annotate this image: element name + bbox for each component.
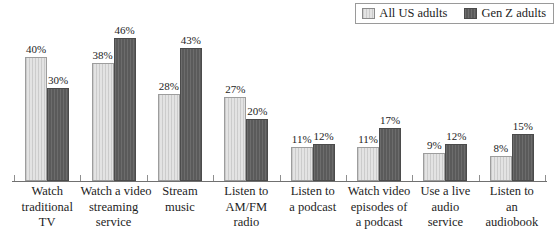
bar-gen-z-adults <box>379 128 401 181</box>
bar-group-bars: 11%17% <box>346 26 412 181</box>
bar-group: 8%15% <box>479 26 545 181</box>
bar-group: 38%46% <box>80 26 146 181</box>
bar-group: 11%17% <box>346 26 412 181</box>
bar-column: 38% <box>92 26 114 181</box>
x-axis-category-label-line: service <box>80 215 146 231</box>
x-axis-category-label-line: Listen to <box>280 184 346 200</box>
bar-chart: All US adults Gen Z adults 40%30%38%46%2… <box>0 0 559 238</box>
x-axis-category-label-line: audio <box>412 200 478 216</box>
x-axis-category-label: Listen toAM/FMradio <box>213 184 279 231</box>
bar-all-us-adults <box>423 153 445 181</box>
x-axis-category-label: Watch videoepisodes ofa podcast <box>346 184 412 231</box>
x-axis-category-label: Watch a videostreamingservice <box>80 184 146 231</box>
legend-label-all-us-adults: All US adults <box>379 7 447 20</box>
x-axis-category-label-line: Stream <box>147 184 213 200</box>
bar-value-label: 30% <box>48 75 68 86</box>
bar-group-bars: 9%12% <box>412 26 478 181</box>
x-axis-tick <box>479 175 480 181</box>
x-axis-category-label-line: an <box>479 200 545 216</box>
bar-gen-z-adults <box>47 88 69 181</box>
chart-legend: All US adults Gen Z adults <box>355 3 554 24</box>
bar-column: 43% <box>180 26 202 181</box>
x-axis-category-labels: WatchtraditionalTVWatch a videostreaming… <box>14 184 545 238</box>
bar-group-bars: 38%46% <box>80 26 146 181</box>
bar-value-label: 8% <box>493 143 508 154</box>
x-axis-tick <box>346 175 347 181</box>
bar-group: 28%43% <box>147 26 213 181</box>
x-axis-category-label: Listen toanaudiobook <box>479 184 545 231</box>
bar-value-label: 9% <box>427 140 442 151</box>
bar-column: 11% <box>357 26 379 181</box>
bar-column: 11% <box>291 26 313 181</box>
bar-gen-z-adults <box>512 134 534 181</box>
bar-value-label: 12% <box>446 131 466 142</box>
bar-gen-z-adults <box>246 119 268 181</box>
x-axis-category-label-line: a podcast <box>346 215 412 231</box>
x-axis-tick <box>147 175 148 181</box>
legend-item-gen-z-adults: Gen Z adults <box>464 7 546 20</box>
x-axis-category-label: WatchtraditionalTV <box>14 184 80 231</box>
bar-gen-z-adults <box>180 48 202 181</box>
x-axis-category-label: Streammusic <box>147 184 213 215</box>
bar-value-label: 15% <box>513 121 533 132</box>
x-axis-line <box>12 181 547 182</box>
bar-all-us-adults <box>224 97 246 181</box>
bar-all-us-adults <box>25 57 47 181</box>
legend-item-all-us-adults: All US adults <box>362 7 447 20</box>
bar-group: 9%12% <box>412 26 478 181</box>
x-axis-category-label-line: audiobook <box>479 215 545 231</box>
x-axis-category-label-line: Watch <box>14 184 80 200</box>
bar-column: 20% <box>246 26 268 181</box>
bar-group-bars: 28%43% <box>147 26 213 181</box>
x-axis-category-label-line: Watch video <box>346 184 412 200</box>
bar-gen-z-adults <box>445 144 467 181</box>
bar-value-label: 17% <box>380 115 400 126</box>
x-axis-tick <box>280 175 281 181</box>
bar-all-us-adults <box>92 63 114 181</box>
bar-group-bars: 11%12% <box>280 26 346 181</box>
x-axis-tick <box>80 175 81 181</box>
bar-value-label: 11% <box>292 134 312 145</box>
bar-group: 40%30% <box>14 26 80 181</box>
bar-value-label: 11% <box>358 134 378 145</box>
x-axis-category-label-line: traditional <box>14 200 80 216</box>
x-axis-category-label-line: TV <box>14 215 80 231</box>
x-axis-tick <box>412 175 413 181</box>
x-axis-category-label-line: radio <box>213 215 279 231</box>
bar-column: 9% <box>423 26 445 181</box>
x-axis-category-label-line: episodes of <box>346 200 412 216</box>
bar-all-us-adults <box>357 147 379 181</box>
x-axis-category-label-line: a podcast <box>280 200 346 216</box>
bar-column: 30% <box>47 26 69 181</box>
bar-group: 27%20% <box>213 26 279 181</box>
bar-group-bars: 8%15% <box>479 26 545 181</box>
x-axis-tick <box>213 175 214 181</box>
bar-value-label: 12% <box>314 131 334 142</box>
bar-column: 46% <box>114 26 136 181</box>
legend-label-gen-z-adults: Gen Z adults <box>481 7 546 20</box>
x-axis-category-label-line: AM/FM <box>213 200 279 216</box>
bar-all-us-adults <box>490 156 512 181</box>
bar-value-label: 43% <box>181 35 201 46</box>
bar-value-label: 27% <box>225 84 245 95</box>
bar-all-us-adults <box>291 147 313 181</box>
x-axis-category-label-line: Use a live <box>412 184 478 200</box>
bar-column: 17% <box>379 26 401 181</box>
x-axis-tick <box>14 175 15 181</box>
bar-value-label: 20% <box>247 106 267 117</box>
bar-column: 28% <box>158 26 180 181</box>
x-axis-category-label-line: service <box>412 215 478 231</box>
bar-column: 40% <box>25 26 47 181</box>
x-axis-category-label-line: Listen to <box>479 184 545 200</box>
bar-value-label: 40% <box>26 44 46 55</box>
legend-swatch-all-us-adults <box>362 8 375 19</box>
x-axis-category-label-line: music <box>147 200 213 216</box>
bar-column: 15% <box>512 26 534 181</box>
bar-value-label: 28% <box>159 81 179 92</box>
bar-column: 12% <box>313 26 335 181</box>
x-axis-category-label-line: streaming <box>80 200 146 216</box>
bar-all-us-adults <box>158 94 180 181</box>
bar-group-bars: 40%30% <box>14 26 80 181</box>
bar-column: 8% <box>490 26 512 181</box>
x-axis-category-label-line: Watch a video <box>80 184 146 200</box>
